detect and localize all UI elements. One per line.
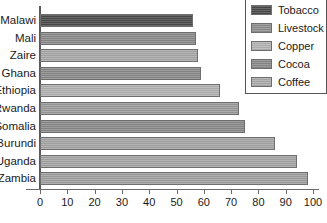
legend-swatch-icon bbox=[251, 41, 272, 51]
x-tick-label: 80 bbox=[243, 196, 273, 208]
bar-row: Somalia bbox=[40, 120, 313, 133]
category-label-wrap: Ethiopia bbox=[0, 84, 36, 97]
x-tick bbox=[67, 189, 68, 194]
x-tick-label: 0 bbox=[25, 196, 55, 208]
legend-swatch-icon bbox=[251, 5, 272, 15]
x-tick bbox=[40, 189, 41, 194]
category-label-wrap: Burundi bbox=[0, 137, 36, 150]
x-tick-label: 10 bbox=[52, 196, 82, 208]
category-label-wrap: Zaire bbox=[0, 49, 36, 62]
bar bbox=[40, 84, 220, 97]
category-label-wrap: Rwanda bbox=[0, 102, 36, 115]
category-label: Somalia bbox=[0, 120, 36, 133]
category-label-wrap: Zambia bbox=[0, 172, 36, 185]
x-tick bbox=[149, 189, 150, 194]
legend-label: Copper bbox=[278, 40, 314, 52]
category-label-wrap: Uganda bbox=[0, 155, 36, 168]
bar bbox=[40, 32, 196, 45]
legend-item[interactable]: Coffee bbox=[251, 75, 322, 88]
bar bbox=[40, 67, 201, 80]
bar-row: Zambia bbox=[40, 172, 313, 185]
bar bbox=[40, 49, 198, 62]
legend-label: Cocoa bbox=[278, 58, 310, 70]
category-label: Uganda bbox=[0, 155, 36, 168]
x-tick bbox=[258, 189, 259, 194]
category-label: Zaire bbox=[0, 49, 36, 62]
category-label: Mali bbox=[0, 32, 36, 45]
bar bbox=[40, 137, 275, 150]
category-label-wrap: Mali bbox=[0, 32, 36, 45]
x-tick bbox=[204, 189, 205, 194]
legend-items: TobaccoLivestockCopperCocoaCoffee bbox=[251, 3, 322, 88]
x-tick bbox=[286, 189, 287, 194]
category-label-wrap: Somalia bbox=[0, 120, 36, 133]
x-tick bbox=[231, 189, 232, 194]
legend-item[interactable]: Tobacco bbox=[251, 3, 322, 16]
category-label: Burundi bbox=[0, 137, 36, 150]
category-label-wrap: Malawi bbox=[0, 14, 36, 27]
category-label: Zambia bbox=[0, 172, 36, 185]
bar-row: Rwanda bbox=[40, 102, 313, 115]
bar bbox=[40, 172, 308, 185]
category-label: Ethiopia bbox=[0, 84, 36, 97]
x-axis-line bbox=[26, 189, 319, 190]
bar-row: Uganda bbox=[40, 155, 313, 168]
bar bbox=[40, 14, 193, 27]
legend-swatch-icon bbox=[251, 59, 272, 69]
x-tick-label: 90 bbox=[271, 196, 301, 208]
bar-row: Burundi bbox=[40, 137, 313, 150]
category-label-wrap: Ghana bbox=[0, 67, 36, 80]
chart-legend: TobaccoLivestockCopperCocoaCoffee bbox=[245, 0, 327, 94]
x-tick-label: 40 bbox=[134, 196, 164, 208]
legend-label: Coffee bbox=[278, 76, 310, 88]
x-tick-label: 20 bbox=[80, 196, 110, 208]
legend-label: Tobacco bbox=[278, 4, 319, 16]
legend-label: Livestock bbox=[278, 22, 324, 34]
x-tick-label: 30 bbox=[107, 196, 137, 208]
bar bbox=[40, 155, 297, 168]
x-tick bbox=[95, 189, 96, 194]
x-tick bbox=[313, 189, 314, 194]
category-label: Malawi bbox=[0, 14, 36, 27]
legend-item[interactable]: Copper bbox=[251, 39, 322, 52]
x-tick bbox=[177, 189, 178, 194]
x-tick bbox=[122, 189, 123, 194]
bar bbox=[40, 120, 245, 133]
legend-item[interactable]: Cocoa bbox=[251, 57, 322, 70]
category-label: Rwanda bbox=[0, 102, 36, 115]
category-label: Ghana bbox=[0, 67, 36, 80]
bar-chart: MalawiMaliZaireGhanaEthiopiaRwandaSomali… bbox=[0, 0, 327, 223]
legend-swatch-icon bbox=[251, 77, 272, 87]
x-tick-label: 70 bbox=[216, 196, 246, 208]
x-tick-label: 50 bbox=[162, 196, 192, 208]
legend-swatch-icon bbox=[251, 23, 272, 33]
x-tick-label: 100 bbox=[298, 196, 327, 208]
bar bbox=[40, 102, 239, 115]
legend-item[interactable]: Livestock bbox=[251, 21, 322, 34]
x-tick-label: 60 bbox=[189, 196, 219, 208]
